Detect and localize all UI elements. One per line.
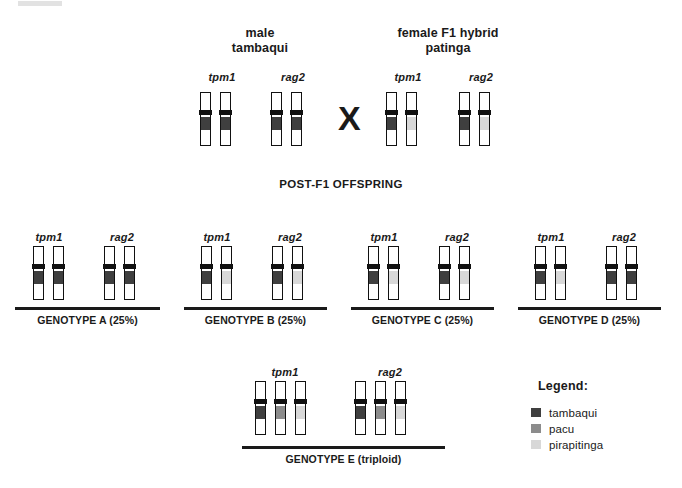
chromosome <box>535 246 546 300</box>
centromere-band <box>478 110 490 115</box>
centromere-band <box>271 264 283 269</box>
chromosome <box>255 381 266 435</box>
allele-band <box>460 117 469 130</box>
allele-band <box>407 117 416 130</box>
allele-band <box>460 271 469 284</box>
genotype-c-gene-label-rag2: rag2 <box>422 231 492 243</box>
centromere-band <box>458 110 470 115</box>
genotype-c-rule <box>351 307 494 310</box>
chromosome <box>33 246 44 300</box>
allele-band <box>396 406 405 419</box>
chromosome <box>375 381 386 435</box>
allele-band <box>272 117 281 130</box>
legend-label-pirapitinga: pirapitinga <box>549 439 603 451</box>
genotype-d-chrom-group-tpm1 <box>535 246 566 300</box>
allele-band <box>273 271 282 284</box>
centromere-band <box>405 110 417 115</box>
centromere-band <box>219 110 231 115</box>
allele-band <box>221 117 230 130</box>
genotype-a-gene-label-tpm1: tpm1 <box>14 231 84 243</box>
female-gene-label-tpm1: tpm1 <box>368 71 448 83</box>
centromere-band <box>274 399 286 404</box>
female-parent-title-line1: female F1 hybrid <box>378 26 518 41</box>
centromere-band <box>270 110 282 115</box>
allele-band <box>276 406 285 419</box>
chromosome <box>626 246 637 300</box>
centromere-band <box>200 264 212 269</box>
genotype-e-chrom-group-rag2 <box>355 381 406 435</box>
female-chrom-group-tpm1 <box>386 92 417 146</box>
cross-symbol: X <box>338 101 361 135</box>
allele-band <box>34 271 43 284</box>
chromosome <box>291 92 302 146</box>
legend-swatch-pirapitinga <box>531 440 541 449</box>
legend-item-tambaqui: tambaqui <box>531 406 597 419</box>
diagram-canvas: male tambaqui female F1 hybrid patinga t… <box>0 0 682 488</box>
centromere-band <box>123 264 135 269</box>
chromosome <box>406 92 417 146</box>
genotype-c-gene-label-tpm1: tpm1 <box>349 231 419 243</box>
allele-band <box>296 406 305 419</box>
allele-band <box>389 271 398 284</box>
female-parent-title-line2: patinga <box>378 41 518 56</box>
allele-band <box>356 406 365 419</box>
genotype-c-label: GENOTYPE C (25%) <box>351 314 494 326</box>
allele-band <box>480 117 489 130</box>
allele-band <box>369 271 378 284</box>
female-parent-title: female F1 hybrid patinga <box>378 26 518 56</box>
genotype-d-chrom-group-rag2 <box>606 246 637 300</box>
legend-label-tambaqui: tambaqui <box>549 407 597 419</box>
chromosome <box>395 381 406 435</box>
genotype-a-rule <box>15 307 160 310</box>
allele-band <box>292 117 301 130</box>
chromosome <box>555 246 566 300</box>
centromere-band <box>458 264 470 269</box>
centromere-band <box>605 264 617 269</box>
chromosome <box>386 92 397 146</box>
genotype-a-gene-label-rag2: rag2 <box>87 231 157 243</box>
legend-item-pirapitinga: pirapitinga <box>531 438 603 451</box>
chromosome <box>459 246 470 300</box>
centromere-band <box>367 264 379 269</box>
allele-band <box>222 271 231 284</box>
chromosome <box>220 92 231 146</box>
male-parent-title-line2: tambaqui <box>205 41 315 56</box>
chromosome <box>439 246 450 300</box>
genotype-d-rule <box>518 307 661 310</box>
genotype-b-label: GENOTYPE B (25%) <box>184 314 327 326</box>
genotype-b-gene-label-rag2: rag2 <box>255 231 325 243</box>
centromere-band <box>438 264 450 269</box>
legend-swatch-tambaqui <box>531 408 541 417</box>
centromere-band <box>387 264 399 269</box>
genotype-d-gene-label-tpm1: tpm1 <box>516 231 586 243</box>
chromosome <box>388 246 399 300</box>
centromere-band <box>385 110 397 115</box>
centromere-band <box>103 264 115 269</box>
legend-title: Legend: <box>538 379 588 393</box>
chromosome <box>201 246 212 300</box>
centromere-band <box>199 110 211 115</box>
genotype-b-chrom-group-rag2 <box>272 246 303 300</box>
male-chrom-group-tpm1 <box>200 92 231 146</box>
genotype-b-gene-label-tpm1: tpm1 <box>182 231 252 243</box>
allele-band <box>376 406 385 419</box>
legend-item-pacu: pacu <box>531 422 574 435</box>
centromere-band <box>354 399 366 404</box>
allele-band <box>293 271 302 284</box>
centromere-band <box>291 264 303 269</box>
post-f1-offspring-title: POST-F1 OFFSPRING <box>241 178 441 190</box>
male-gene-label-rag2: rag2 <box>253 71 333 83</box>
genotype-e-rule <box>242 446 445 449</box>
allele-band <box>125 271 134 284</box>
male-gene-label-tpm1: tpm1 <box>182 71 262 83</box>
chromosome <box>606 246 617 300</box>
chromosome <box>355 381 366 435</box>
centromere-band <box>220 264 232 269</box>
centromere-band <box>254 399 266 404</box>
genotype-a-label: GENOTYPE A (25%) <box>15 314 160 326</box>
chromosome <box>53 246 64 300</box>
chromosome <box>272 246 283 300</box>
male-parent-title-line1: male <box>205 26 315 41</box>
male-chrom-group-rag2 <box>271 92 302 146</box>
allele-band <box>201 117 210 130</box>
